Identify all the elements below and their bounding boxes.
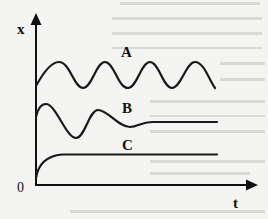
- curve-b-label: B: [122, 100, 132, 116]
- origin-label: 0: [17, 180, 24, 195]
- x-axis-label: t: [233, 195, 238, 211]
- curve-a: [36, 62, 215, 88]
- curve-c: [36, 155, 217, 179]
- y-axis-label: x: [17, 21, 25, 37]
- x-axis-arrow-icon: [246, 180, 258, 191]
- curve-a-label: A: [121, 44, 132, 60]
- system-response-diagram: x t 0 A B C: [0, 0, 268, 219]
- curve-c-label: C: [122, 137, 133, 153]
- y-axis-arrow-icon: [31, 13, 42, 25]
